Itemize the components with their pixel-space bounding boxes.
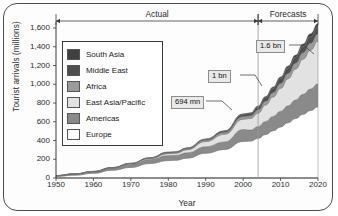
chart-stage: Tourist arrivals (millions) Year 0200400… (0, 0, 338, 216)
legend-item-middle-east: Middle East (67, 62, 162, 78)
legend-label: Europe (86, 130, 112, 139)
legend-item-americas: Americas (67, 110, 162, 126)
value-callout: 1.6 bn (256, 40, 285, 53)
legend-item-south-asia: South Asia (67, 46, 162, 62)
legend-swatch-icon (67, 113, 80, 124)
legend-label: South Asia (86, 50, 124, 59)
legend-swatch-icon (67, 65, 80, 76)
legend-item-africa: Africa (67, 78, 162, 94)
chart-legend: South AsiaMiddle EastAfricaEast Asia/Pac… (62, 41, 163, 146)
legend-swatch-icon (67, 97, 80, 108)
span-label: Actual (56, 9, 258, 19)
span-label: Forecasts (258, 9, 318, 19)
legend-label: East Asia/Pacific (86, 98, 145, 107)
legend-item-east-asia-pacific: East Asia/Pacific (67, 94, 162, 110)
legend-swatch-icon (67, 49, 80, 60)
area-chart-plot (0, 0, 338, 216)
legend-item-europe: Europe (67, 126, 162, 142)
value-callout: 694 mn (171, 96, 204, 109)
value-callout: 1 bn (208, 70, 231, 83)
legend-label: Middle East (86, 66, 128, 75)
legend-label: Africa (86, 82, 106, 91)
legend-label: Americas (86, 114, 119, 123)
legend-swatch-icon (67, 129, 80, 140)
legend-swatch-icon (67, 81, 80, 92)
